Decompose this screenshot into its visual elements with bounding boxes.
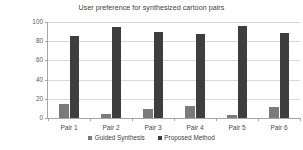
bar-group: [174, 22, 216, 118]
x-tick-label: Pair 6: [258, 124, 300, 131]
y-tick-label: 80: [23, 38, 43, 44]
chart-legend: Guided SynthesisProposed Method: [0, 134, 303, 141]
x-tick-mark: [48, 118, 49, 121]
bar[interactable]: [196, 34, 206, 118]
y-tick-label: 60: [23, 57, 43, 63]
x-tick-label: Pair 5: [216, 124, 258, 131]
x-tick-label: Pair 4: [174, 124, 216, 131]
chart-container: User preference for synthesized cartoon …: [0, 0, 303, 150]
bar[interactable]: [185, 106, 195, 118]
bar-group: [258, 22, 300, 118]
x-tick-mark: [300, 118, 301, 121]
legend-label: Guided Synthesis: [95, 134, 145, 141]
bar-group: [48, 22, 90, 118]
bar[interactable]: [238, 26, 248, 118]
x-tick-mark: [90, 118, 91, 121]
chart-title: User preference for synthesized cartoon …: [0, 4, 303, 12]
legend-label: Proposed Method: [164, 134, 214, 141]
x-tick-label: Pair 1: [48, 124, 90, 131]
legend-item[interactable]: Guided Synthesis: [88, 134, 145, 141]
legend-item[interactable]: Proposed Method: [158, 134, 215, 141]
x-tick-mark: [132, 118, 133, 121]
bar[interactable]: [269, 107, 279, 118]
bar[interactable]: [143, 109, 153, 118]
x-tick-label: Pair 2: [90, 124, 132, 131]
bar[interactable]: [112, 27, 122, 118]
y-tick-label: 100: [23, 19, 43, 25]
bar[interactable]: [154, 32, 164, 118]
y-tick-label: 20: [23, 96, 43, 102]
bar[interactable]: [280, 33, 290, 118]
y-tick-label: 0: [23, 115, 43, 121]
x-tick-mark: [174, 118, 175, 121]
bar[interactable]: [101, 114, 111, 118]
bar[interactable]: [59, 104, 69, 118]
bar-group: [216, 22, 258, 118]
x-tick-mark: [258, 118, 259, 121]
x-tick-label: Pair 3: [132, 124, 174, 131]
x-tick-mark: [216, 118, 217, 121]
legend-swatch-icon: [88, 136, 92, 140]
bar-group: [132, 22, 174, 118]
bar-group: [90, 22, 132, 118]
bar[interactable]: [70, 36, 80, 118]
legend-swatch-icon: [158, 136, 162, 140]
plot-area: 020406080100 Pair 1Pair 2Pair 3Pair 4Pai…: [48, 22, 300, 118]
y-tick-label: 40: [23, 77, 43, 83]
bar[interactable]: [227, 115, 237, 118]
